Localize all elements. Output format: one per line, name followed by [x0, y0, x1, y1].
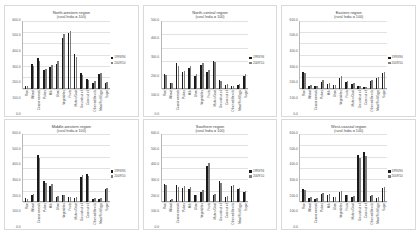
y-axis-tick-label: 600.0 [290, 132, 298, 135]
legend-item[interactable]: 2009/10 [249, 175, 275, 178]
plot-wrapper: RiceWheatCoarse cerealsPulsesMilkGheeVeg… [22, 21, 110, 115]
bar [245, 74, 247, 88]
y-axis-tick-label: 400.0 [12, 164, 20, 167]
x-axis-tick: Sugar [103, 89, 109, 115]
legend-label: 1993/94 [392, 56, 403, 59]
bar [245, 191, 247, 202]
y-axis-tick-label: 500.0 [151, 148, 159, 151]
y-axis-tick-label: 600.0 [12, 19, 20, 22]
y-axis-tick-label: 0.0 [293, 226, 298, 229]
y-axis-tick-label: 500.0 [290, 148, 298, 151]
y-axis-tick-label: 500.0 [290, 35, 298, 38]
bar [347, 81, 349, 88]
legend-item[interactable]: 1993/94 [249, 170, 275, 173]
legend-label: 2009/10 [392, 175, 403, 178]
y-axis-tick-label: 600.0 [151, 132, 159, 135]
legend-item[interactable]: 2009/10 [111, 62, 137, 65]
bar [208, 70, 210, 89]
bar [341, 76, 343, 88]
chart-title: North-central region [145, 8, 276, 15]
bar-group-container [300, 134, 387, 202]
legend-item[interactable]: 1993/94 [388, 170, 414, 173]
bar [220, 81, 222, 89]
legend-item[interactable]: 2009/10 [388, 175, 414, 178]
plot-row: 0.0100.0200.0300.0400.0500.0RiceWheatCoa… [145, 21, 276, 115]
legend-swatch-icon [249, 57, 252, 60]
y-axis-tick-label: 100.0 [12, 211, 20, 214]
y-axis-tick-label: 300.0 [290, 179, 298, 182]
bar [51, 65, 53, 88]
y-axis-tick-label: 400.0 [151, 164, 159, 167]
bar [371, 80, 373, 89]
plot-row: 0.0100.0200.0300.0400.0500.0600.0RiceWhe… [283, 134, 414, 228]
legend-item[interactable]: 1993/94 [249, 56, 275, 59]
bar-group [242, 134, 248, 202]
chart-panel: Southern region(rural India = 100)0.0100… [143, 119, 278, 231]
y-axis-tick-label: 400.0 [290, 50, 298, 53]
bar [304, 190, 306, 202]
legend-item[interactable]: 2009/10 [249, 62, 275, 65]
legend-swatch-icon [249, 175, 252, 178]
bar [214, 62, 216, 88]
y-axis: 0.0100.0200.0300.0400.0500.0 [145, 21, 161, 115]
bar [76, 57, 78, 89]
y-axis-tick-label: 400.0 [290, 164, 298, 167]
bar-group [242, 21, 248, 89]
legend-swatch-icon [249, 62, 252, 65]
y-axis-tick-label: 200.0 [12, 195, 20, 198]
bar-group-container [23, 134, 110, 202]
bar [39, 158, 41, 202]
bar [384, 187, 386, 202]
legend-item[interactable]: 1993/94 [111, 56, 137, 59]
y-axis-tick-label: 600.0 [290, 19, 298, 22]
chart-title: West-coastal region [283, 122, 414, 129]
bar [165, 75, 167, 88]
x-axis-tick: Sugar [380, 202, 386, 228]
bar [184, 71, 186, 89]
bar [202, 63, 204, 88]
y-axis: 0.0100.0200.0300.0400.0500.0600.0 [6, 134, 22, 228]
bar [184, 186, 186, 202]
x-axis-labels: RiceWheatCoarse cerealsPulsesMilkGheeVeg… [299, 202, 387, 228]
bar [88, 176, 90, 202]
bar [378, 77, 380, 89]
bar [94, 81, 96, 88]
plot-area [22, 134, 110, 202]
y-axis-tick-label: 100.0 [12, 97, 20, 100]
chart-title: Eastern region [283, 8, 414, 15]
y-axis-tick-label: 300.0 [12, 179, 20, 182]
bar [70, 31, 72, 89]
y-axis-tick-label: 500.0 [12, 35, 20, 38]
legend-swatch-icon [388, 170, 391, 173]
y-axis-tick-label: 0.0 [16, 226, 21, 229]
legend-label: 2009/10 [392, 62, 403, 65]
x-axis-tick-label: Sugar [383, 90, 386, 98]
y-axis: 0.0100.0200.0300.0400.0500.0600.0 [283, 134, 299, 228]
y-axis: 0.0100.0200.0300.0400.0500.0600.0 [6, 21, 22, 115]
bar [57, 61, 59, 88]
chart-legend: 1993/942009/10 [387, 21, 414, 115]
chart-legend: 1993/942009/10 [248, 21, 275, 115]
small-multiples-figure: North-western region(rural India = 100)0… [0, 0, 420, 233]
bar [208, 163, 210, 202]
y-axis-tick-label: 200.0 [12, 81, 20, 84]
y-axis: 0.0100.0200.0300.0400.0500.0600.0 [145, 134, 161, 228]
legend-label: 1993/94 [253, 170, 264, 173]
bar [82, 75, 84, 89]
legend-item[interactable]: 1993/94 [111, 170, 137, 173]
bar [190, 66, 192, 89]
bar [384, 72, 386, 89]
chart-legend: 1993/942009/10 [110, 134, 137, 228]
legend-item[interactable]: 2009/10 [111, 175, 137, 178]
bar-group [380, 134, 386, 202]
legend-swatch-icon [249, 170, 252, 173]
bar [33, 194, 35, 202]
bar [178, 187, 180, 202]
legend-item[interactable]: 1993/94 [388, 56, 414, 59]
y-axis-tick-label: 400.0 [12, 50, 20, 53]
legend-item[interactable]: 2009/10 [388, 62, 414, 65]
bar [88, 80, 90, 89]
y-axis: 0.0100.0200.0300.0400.0500.0600.0 [283, 21, 299, 115]
y-axis-tick-label: 200.0 [151, 75, 159, 78]
plot-wrapper: RiceWheatCoarse cerealsPulsesMilkGheeVeg… [299, 21, 387, 115]
